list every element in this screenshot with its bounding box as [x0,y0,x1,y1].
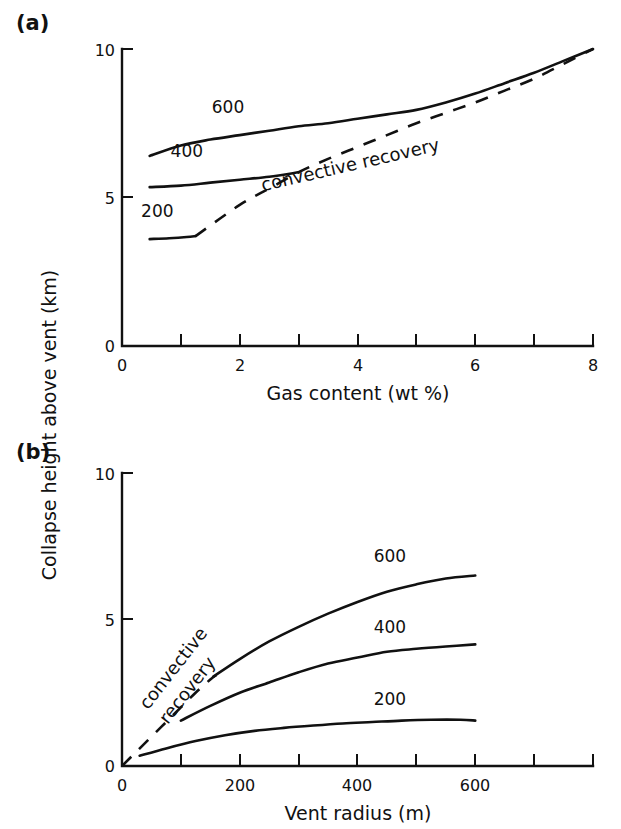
curve-label-400-panel-a: 400 [171,141,203,161]
panel-b-xtick-200: 200 [225,776,256,795]
figure-svg: (a) 10 5 0 [0,0,621,829]
annotation-convective-recovery-panel-a: convective recovery [259,134,442,196]
panel-b-ytick-10: 10 [95,465,115,484]
curve-label-600-panel-a: 600 [212,97,244,117]
panel-b-ytick-5: 5 [105,611,115,630]
curve-200-panel-b [140,720,476,756]
curve-200-panel-a [150,236,196,239]
panel-b-ytick-0: 0 [105,757,115,776]
panel-a-xtick-6: 6 [470,356,480,375]
figure-container: (a) 10 5 0 [0,0,621,829]
panel-a-xtick-8: 8 [588,356,598,375]
panel-a-axes [122,49,593,346]
panel-a-ytick-5: 5 [105,189,115,208]
panel-a-tag: (a) [16,11,49,35]
panel-a-xlabel: Gas content (wt %) [267,382,450,404]
curve-label-200-panel-a: 200 [141,201,173,221]
panel-b-xtick-400: 400 [342,776,373,795]
panel-a-xtick-0: 0 [117,356,127,375]
panel-a-ytick-10: 10 [95,41,115,60]
panel-a: (a) 10 5 0 [16,11,598,404]
panel-b-xtick-600: 600 [460,776,491,795]
panel-a-xtick-4: 4 [353,356,363,375]
panel-a-x-ticks [122,334,593,346]
shared-ylabel: Collapse height above vent (km) [38,270,60,581]
panel-b-xtick-0: 0 [117,776,127,795]
curve-600-panel-b [213,576,475,677]
panel-b-y-ticks [122,473,133,619]
panel-a-ytick-0: 0 [105,337,115,356]
panel-b-xlabel: Vent radius (m) [285,802,432,824]
panel-a-y-ticks [122,49,133,197]
curve-label-200-panel-b: 200 [374,689,406,709]
curve-label-600-panel-b: 600 [374,546,406,566]
curve-400-panel-b [181,644,475,720]
curve-label-400-panel-b: 400 [374,617,406,637]
panel-b-x-ticks [122,754,593,766]
panel-b: (b) 10 5 0 [16,440,593,824]
panel-a-xtick-2: 2 [235,356,245,375]
